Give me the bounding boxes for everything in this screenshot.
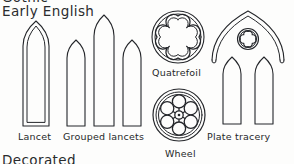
grouped-lancet-left: [67, 40, 85, 126]
grouped-lancet-right: [123, 40, 141, 126]
plate-tracery-containing-arch-inner: [216, 16, 280, 60]
figure-lancet: [20, 20, 60, 128]
plate-tracery-lancet-left: [223, 57, 241, 124]
section-heading-above-clipped: Gothic: [2, 0, 48, 2]
illustration-canvas: Gothic Early English Lancet Grouped lanc…: [0, 0, 294, 164]
plate-tracery-oculus-quatrefoil: [240, 31, 256, 47]
section-heading-above-text: Gothic: [2, 0, 48, 2]
quatrefoil-foil-outer: [155, 14, 200, 59]
figure-label-plate-tracery: Plate tracery: [207, 131, 270, 142]
figure-label-quatrefoil: Quatrefoil: [152, 67, 201, 78]
figure-quatrefoil: [150, 9, 206, 65]
quatrefoil-foil-inner: [159, 18, 198, 56]
figure-plate-tracery: [206, 8, 290, 126]
quatrefoil-middle-ring: [155, 14, 201, 60]
quatrefoil-outer-ring: [152, 11, 204, 63]
plate-tracery-oculus-inner: [239, 30, 256, 47]
plate-tracery-containing-arch-outer: [212, 11, 284, 60]
figure-label-grouped-lancets: Grouped lancets: [63, 131, 144, 142]
section-heading-below-clipped: Decorated: [2, 152, 76, 164]
figure-label-wheel: Wheel: [165, 148, 196, 159]
section-heading-below-text: Decorated: [2, 152, 76, 164]
lancet-inner-outline: [27, 26, 45, 122]
figure-wheel: [152, 88, 206, 142]
wheel-hub-center-dot: [178, 114, 181, 117]
figure-label-lancet: Lancet: [18, 131, 51, 142]
plate-tracery-right-foot: [280, 60, 284, 63]
grouped-lancet-center: [94, 15, 114, 126]
plate-tracery-left-foot: [212, 60, 216, 63]
plate-tracery-lancet-right: [255, 57, 273, 124]
figure-grouped-lancets: [64, 14, 146, 128]
